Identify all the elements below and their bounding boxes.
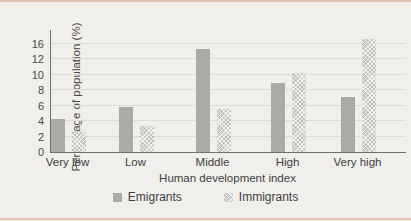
y-tick-label-4: 4 [22,116,44,127]
legend-swatch-emigrants [113,193,122,202]
scan-artifact-top-stripe [0,0,411,2]
bar-group-high [271,30,306,152]
legend-label-immigrants: Immigrants [239,190,298,204]
bar-group-very-low [51,30,86,152]
scanned-chart-figure: Percentage of population (%) 02468101216… [0,0,411,221]
category-label-middle: Middle [173,156,253,168]
legend-label-emigrants: Emigrants [128,190,182,204]
bar-immigrants-high [292,73,306,152]
plot-area [50,30,406,153]
bar-immigrants-low [140,126,154,152]
y-tick-label-12: 12 [22,54,44,65]
bar-immigrants-very-low [72,131,86,152]
bar-group-very-high [341,30,376,152]
bar-immigrants-middle [217,109,231,152]
bar-emigrants-middle [196,49,210,152]
legend-item-immigrants: Immigrants [224,190,298,204]
bar-emigrants-high [271,83,285,152]
bar-emigrants-very-low [51,119,65,152]
bar-emigrants-low [119,107,133,152]
y-tick-label-8: 8 [22,85,44,96]
y-tick-label-6: 6 [22,101,44,112]
scan-artifact-bottom-stripe [0,218,411,220]
bar-group-middle [196,30,231,152]
category-label-very-high: Very high [318,156,398,168]
legend-item-emigrants: Emigrants [113,190,182,204]
bar-group-low [119,30,154,152]
x-axis-title: Human development index [50,172,405,184]
category-label-low: Low [96,156,176,168]
bar-emigrants-very-high [341,97,355,152]
y-tick-label-10: 10 [22,70,44,81]
legend-swatch-immigrants [224,193,233,202]
category-label-high: High [248,156,328,168]
y-tick-label-2: 2 [22,132,44,143]
legend: EmigrantsImmigrants [0,190,411,204]
y-tick-label-16: 16 [22,39,44,50]
bar-immigrants-very-high [362,39,376,152]
